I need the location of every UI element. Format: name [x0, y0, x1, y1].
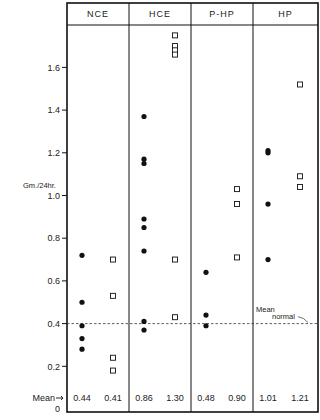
data-point-square [173, 52, 178, 57]
y-tick-label: 1.4 [47, 105, 60, 115]
y-tick-label: 0.6 [47, 276, 60, 286]
mean-row-label: Mean [32, 393, 55, 403]
data-point-circle [79, 300, 84, 305]
data-point-square [235, 202, 240, 207]
mean-value: 0.44 [73, 393, 91, 403]
mean-value: 0.86 [135, 393, 153, 403]
y-tick-label: 1.6 [47, 63, 60, 73]
group-header-hp: HP [278, 9, 293, 19]
data-point-square [235, 255, 240, 260]
mean-value: 0.41 [104, 393, 122, 403]
data-point-square [298, 82, 303, 87]
y-tick-label: 0 [55, 404, 60, 414]
data-point-square [111, 355, 116, 360]
mean-value: 0.90 [228, 393, 246, 403]
reference-label-normal: normal [272, 312, 295, 321]
data-point-circle [141, 161, 146, 166]
data-point-square [173, 257, 178, 262]
data-point-square [235, 187, 240, 192]
mean-value: 1.21 [291, 393, 309, 403]
data-point-square [173, 33, 178, 38]
scatter-chart: NCEHCEP-HPHP 00.20.40.60.81.01.21.41.6 M… [0, 0, 320, 420]
data-point-circle [79, 347, 84, 352]
data-point-circle [141, 319, 146, 324]
data-point-circle [203, 323, 208, 328]
data-point-circle [141, 327, 146, 332]
data-point-circle [141, 216, 146, 221]
y-tick-label: 0.4 [47, 319, 60, 329]
group-header-hce: HCE [149, 9, 171, 19]
group-header-p-hp: P-HP [209, 9, 235, 19]
y-axis: 00.20.40.60.81.01.21.41.6 [47, 63, 67, 415]
data-point-circle [79, 323, 84, 328]
mean-arrow-icon [56, 396, 63, 400]
data-point-square [173, 315, 178, 320]
mean-normal-reference-line: Meannormal [67, 305, 318, 324]
data-point-circle [141, 114, 146, 119]
mean-value: 0.48 [197, 393, 215, 403]
mean-values-row: Mean0.440.860.481.010.411.300.901.21 [32, 393, 308, 403]
data-point-square [111, 368, 116, 373]
data-point-circle [265, 201, 270, 206]
data-point-circle [79, 336, 84, 341]
data-point-circle [265, 257, 270, 262]
group-header-nce: NCE [87, 9, 109, 19]
mean-value: 1.30 [166, 393, 184, 403]
plot-border [67, 3, 318, 412]
data-point-square [298, 184, 303, 189]
data-point-circle [79, 253, 84, 258]
data-point-circle [203, 312, 208, 317]
y-tick-label: 1.2 [47, 148, 60, 158]
data-point-square [111, 257, 116, 262]
mean-value: 1.01 [259, 393, 277, 403]
data-point-circle [141, 248, 146, 253]
reference-label-pointer [298, 317, 308, 323]
data-point-square [111, 293, 116, 298]
y-axis-label: Gm./24hr. [23, 181, 56, 190]
plot-frame [67, 3, 318, 412]
y-tick-label: 0.8 [47, 233, 60, 243]
y-tick-label: 0.2 [47, 362, 60, 372]
data-point-circle [141, 225, 146, 230]
data-point-circle [265, 150, 270, 155]
y-tick-label: 1.0 [47, 191, 60, 201]
data-point-square [298, 174, 303, 179]
group-headers: NCEHCEP-HPHP [87, 9, 293, 19]
data-point-circle [203, 270, 208, 275]
